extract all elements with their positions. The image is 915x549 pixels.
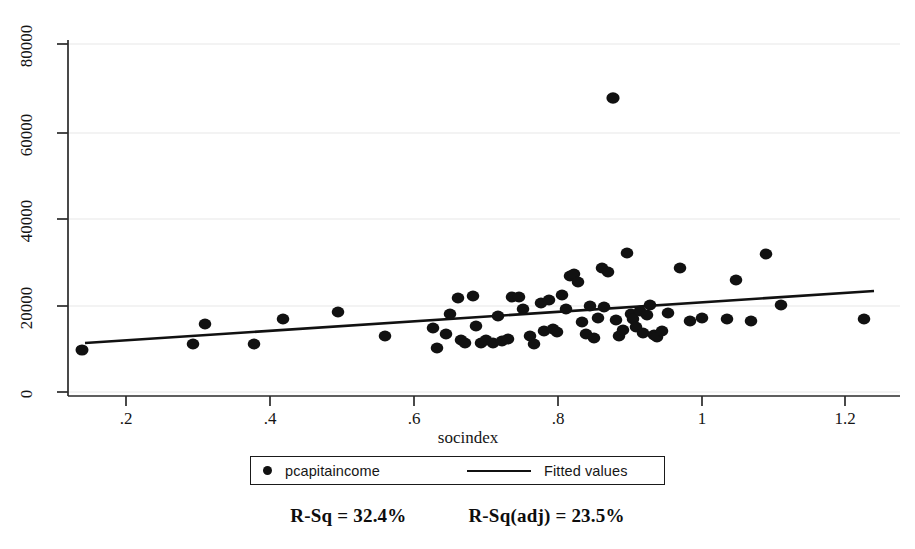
scatter-point (610, 315, 623, 326)
legend-marker-dot-icon (263, 466, 272, 475)
scatter-point (760, 249, 773, 260)
scatter-point (641, 310, 654, 321)
scatter-plot-figure: 0 20000 40000 60000 80000 .2 .4 .6 .8 1 … (0, 0, 915, 549)
legend-label-pcapitaincome: pcapitaincome (285, 463, 380, 479)
scatter-point (444, 309, 457, 320)
scatter-point (551, 327, 564, 338)
y-tick-label-0: 0 (17, 364, 37, 424)
statistics-caption: R-Sq = 32.4% R-Sq(adj) = 23.5% (0, 505, 915, 527)
x-tick-label-1.2: 1.2 (815, 409, 875, 429)
r-squared-adjusted-text: R-Sq(adj) = 23.5% (468, 505, 624, 527)
scatter-point (721, 314, 734, 325)
scatter-point (745, 316, 758, 327)
x-tick-label-0.6: .6 (384, 409, 444, 429)
scatter-point-outlier (606, 92, 619, 103)
scatter-point (431, 343, 444, 354)
scatter-point (588, 333, 601, 344)
scatter-point (528, 339, 541, 350)
y-tick-label-20000: 20000 (17, 260, 37, 356)
scatter-point (674, 263, 687, 274)
scatter-point (662, 308, 675, 319)
x-tick-label-1: 1 (672, 409, 732, 429)
x-tick-label-0.2: .2 (96, 409, 156, 429)
scatter-point (560, 304, 573, 315)
scatter-point (621, 248, 634, 259)
x-tick-label-0.8: .8 (528, 409, 588, 429)
x-tick-label-0.4: .4 (240, 409, 300, 429)
scatter-point (584, 301, 597, 312)
scatter-point (427, 323, 440, 334)
fitted-values-line (85, 291, 874, 343)
scatter-point (576, 317, 589, 328)
scatter-point (332, 307, 345, 318)
x-axis (68, 396, 900, 406)
scatter-point (76, 344, 89, 355)
scatter-point (637, 328, 650, 339)
legend-entry-fitted-values: Fitted values (467, 457, 628, 484)
legend-entry-pcapitaincome: pcapitaincome (263, 457, 380, 484)
scatter-point (502, 334, 515, 345)
y-tick-label-60000: 60000 (17, 87, 37, 183)
scatter-point (459, 338, 472, 349)
scatter-point (199, 319, 212, 330)
x-axis-title: socindex (408, 428, 528, 448)
scatter-point (517, 304, 530, 315)
y-tick-label-80000: 80000 (17, 0, 37, 94)
scatter-point (684, 316, 697, 327)
y-axis (57, 40, 68, 396)
legend-label-fitted-values: Fitted values (544, 463, 628, 479)
scatter-point (248, 339, 261, 350)
scatter-point (513, 292, 526, 303)
scatter-point (730, 275, 743, 286)
scatter-point (556, 290, 569, 301)
scatter-point (656, 326, 669, 337)
scatter-point (452, 293, 465, 304)
scatter-point (379, 331, 392, 342)
scatter-point (572, 277, 585, 288)
y-tick-label-40000: 40000 (17, 173, 37, 269)
scatter-point (644, 300, 657, 311)
scatter-point (440, 329, 453, 340)
scatter-points (76, 92, 871, 355)
scatter-point (602, 267, 615, 278)
legend: pcapitaincome Fitted values (250, 456, 665, 485)
scatter-point (187, 339, 200, 350)
r-squared-text: R-Sq = 32.4% (290, 505, 406, 527)
scatter-point (543, 295, 556, 306)
scatter-point (617, 325, 630, 336)
scatter-point (592, 313, 605, 324)
legend-marker-line-icon (467, 470, 531, 472)
scatter-point (775, 300, 788, 311)
scatter-point (277, 314, 290, 325)
scatter-point (470, 321, 483, 332)
scatter-point (858, 314, 871, 325)
scatter-point (467, 291, 480, 302)
scatter-point (492, 311, 505, 322)
scatter-point (696, 313, 709, 324)
scatter-point (598, 302, 611, 313)
